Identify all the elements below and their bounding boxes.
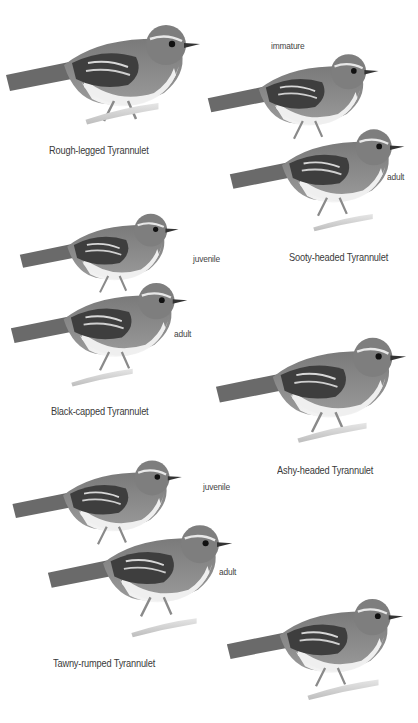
twig xyxy=(130,612,198,642)
twig xyxy=(312,206,374,238)
twig xyxy=(84,98,160,128)
twig xyxy=(296,416,368,448)
twig xyxy=(70,362,134,392)
sooty-headed-tyrannulet-adult-illustration xyxy=(228,116,408,220)
form-label-adult: adult xyxy=(387,171,404,182)
species-label-sooty-headed: Sooty-headed Tyrannulet xyxy=(289,251,388,263)
form-label-juvenile: juvenile xyxy=(193,253,220,264)
form-label-juvenile: juvenile xyxy=(203,481,230,492)
species-label-black-capped: Black-capped Tyrannulet xyxy=(51,405,148,417)
species-label-tawny-rumped: Tawny-rumped Tyrannulet xyxy=(53,657,155,669)
black-capped-tyrannulet-adult-illustration xyxy=(2,272,198,372)
twig xyxy=(306,672,380,706)
form-label-adult: adult xyxy=(219,566,236,577)
species-label-ashy-headed: Ashy-headed Tyrannulet xyxy=(277,464,373,476)
species-label-rough-legged: Rough-legged Tyrannulet xyxy=(49,144,149,156)
form-label-adult: adult xyxy=(174,328,191,339)
tawny-rumped-tyrannulet-adult-illustration xyxy=(46,504,236,628)
